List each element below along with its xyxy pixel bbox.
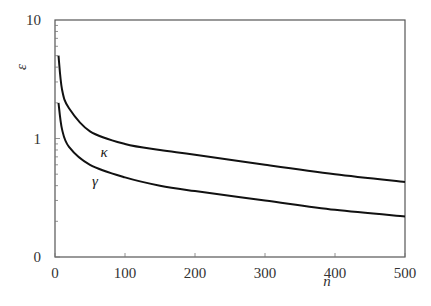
x-tick-label: 300 [254, 265, 277, 281]
x-axis-ticks [55, 253, 405, 257]
x-axis-label: n [323, 273, 331, 289]
y-tick-label: 1 [34, 131, 42, 147]
y-tick-label: 0 [34, 249, 42, 265]
y-tick-label: 10 [26, 12, 41, 28]
data-series [59, 56, 406, 217]
x-tick-label: 200 [184, 265, 207, 281]
x-tick-label: 100 [114, 265, 137, 281]
y-axis-tick-labels: 0110 [26, 12, 41, 265]
y-axis-label: ε [13, 64, 29, 70]
x-tick-label: 500 [394, 265, 417, 281]
curve-label: κ [100, 144, 108, 160]
curve-κ [59, 56, 406, 182]
line-chart: 0100200300400500 0110 n ε κγ [0, 0, 431, 306]
x-axis-tick-labels: 0100200300400500 [51, 265, 416, 281]
x-tick-label: 0 [51, 265, 59, 281]
